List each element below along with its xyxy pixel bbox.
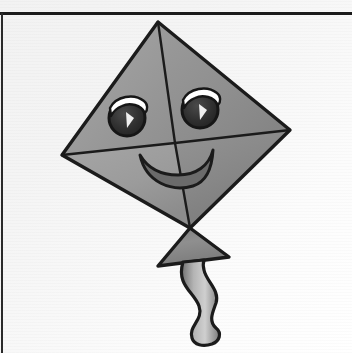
kite-tail xyxy=(181,260,219,345)
kite-svg xyxy=(0,0,352,353)
illustration-page xyxy=(0,0,352,353)
left-eye xyxy=(109,97,147,136)
right-eye xyxy=(182,89,220,128)
kite-body xyxy=(62,22,290,228)
kite-artwork xyxy=(0,0,352,353)
